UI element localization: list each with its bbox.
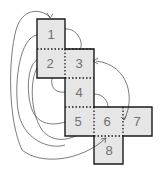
label-2: 2 [46,56,53,71]
label-7: 7 [133,114,140,129]
arc-1-3 [65,29,81,49]
label-4: 4 [75,85,82,100]
cube-net-svg: 1 2 3 4 5 6 7 8 [0,0,165,177]
label-8: 8 [105,143,112,158]
label-1: 1 [47,27,54,42]
cube-net-diagram: 1 2 3 4 5 6 7 8 [0,0,165,177]
arc-2-4 [52,78,65,92]
label-6: 6 [103,114,110,129]
arc-4-6 [94,94,108,107]
label-3: 3 [75,56,82,71]
label-5: 5 [74,114,81,129]
